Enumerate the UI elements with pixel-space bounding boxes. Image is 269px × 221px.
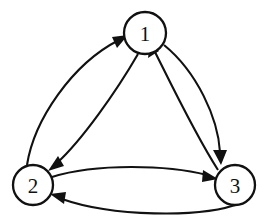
edge-3-to-2-path	[62, 199, 241, 214]
directed-graph-figure: 1 2 3	[0, 0, 269, 221]
node-3[interactable]: 3	[215, 165, 255, 205]
node-1-label: 1	[140, 22, 151, 46]
edge-1-to-3-arrowhead	[213, 150, 227, 165]
edge-1-to-3-path	[164, 45, 220, 152]
graph-canvas: 1 2 3	[0, 0, 269, 221]
edge-2-to-3-path	[52, 167, 207, 177]
edge-1-to-3	[164, 45, 227, 165]
node-2-label: 2	[28, 174, 39, 198]
edge-2-to-1	[27, 35, 128, 165]
edge-3-to-2	[50, 192, 241, 214]
edge-1-to-2-path	[57, 54, 138, 163]
edge-2-to-3	[52, 167, 218, 182]
edge-1-to-2	[48, 54, 138, 171]
node-1[interactable]: 1	[124, 12, 166, 54]
node-2[interactable]: 2	[13, 165, 53, 205]
node-3-label: 3	[230, 174, 241, 198]
edge-3-to-2-arrowhead	[50, 192, 66, 204]
